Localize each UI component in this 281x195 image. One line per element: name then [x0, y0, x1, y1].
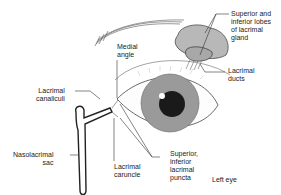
- label-lacrimal-gland: Superior and inferior lobes of lacrimal …: [231, 10, 271, 42]
- label-lacrimal-ducts: Lacrimal ducts: [228, 67, 254, 83]
- label-lacrimal-caruncle: Lacrimal caruncle: [114, 163, 140, 179]
- label-nasolacrimal-sac: Nasolacrimal sac: [13, 151, 53, 167]
- canaliculi: [112, 100, 118, 117]
- highlight: [159, 93, 165, 99]
- nasolacrimal-sac: [76, 106, 112, 194]
- label-left-eye: Left eye: [212, 176, 237, 184]
- eyebrow: [95, 20, 184, 46]
- label-lacrimal-canaliculi: Lacrimal canaliculi: [36, 87, 65, 103]
- label-lacrimal-puncta: Superior, inferior lacrimal puncta: [170, 150, 198, 182]
- label-medial-angle: Medial angle: [117, 43, 138, 59]
